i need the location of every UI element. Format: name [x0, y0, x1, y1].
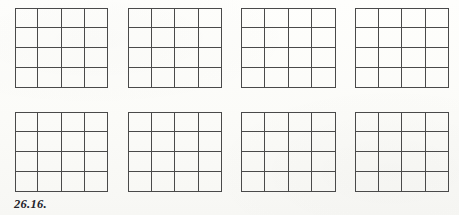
grid-cell[interactable] — [379, 68, 403, 88]
grid-cell[interactable] — [312, 48, 336, 68]
grid-cell[interactable] — [128, 28, 152, 48]
grid-cell[interactable] — [426, 112, 450, 132]
grid-cell[interactable] — [426, 68, 450, 88]
grid-cell[interactable] — [426, 8, 450, 28]
grid-3[interactable] — [241, 8, 336, 88]
grid-cell[interactable] — [402, 172, 426, 192]
grid-cell[interactable] — [15, 112, 38, 132]
grid-cell[interactable] — [379, 8, 403, 28]
grid-cell[interactable] — [128, 152, 152, 172]
grid-cell[interactable] — [62, 68, 85, 88]
grid-cell[interactable] — [175, 152, 199, 172]
grid-cell[interactable] — [265, 132, 289, 152]
grid-cell[interactable] — [15, 132, 38, 152]
grid-cell[interactable] — [289, 28, 313, 48]
grid-cell[interactable] — [15, 68, 38, 88]
grid-cell[interactable] — [355, 112, 379, 132]
grid-cell[interactable] — [128, 172, 152, 192]
grid-cell[interactable] — [265, 8, 289, 28]
grid-cell[interactable] — [199, 132, 223, 152]
grid-cell[interactable] — [62, 152, 85, 172]
grid-cell[interactable] — [289, 172, 313, 192]
grid-cell[interactable] — [152, 48, 176, 68]
grid-cell[interactable] — [85, 68, 108, 88]
grid-6[interactable] — [128, 112, 222, 192]
grid-cell[interactable] — [128, 112, 152, 132]
grid-cell[interactable] — [199, 68, 223, 88]
grid-cell[interactable] — [402, 132, 426, 152]
grid-cell[interactable] — [38, 152, 61, 172]
grid-cell[interactable] — [379, 132, 403, 152]
grid-cell[interactable] — [175, 8, 199, 28]
grid-cell[interactable] — [175, 112, 199, 132]
grid-cell[interactable] — [62, 8, 85, 28]
grid-cell[interactable] — [152, 28, 176, 48]
grid-cell[interactable] — [402, 28, 426, 48]
grid-cell[interactable] — [379, 152, 403, 172]
grid-cell[interactable] — [426, 172, 450, 192]
grid-cell[interactable] — [152, 132, 176, 152]
grid-cell[interactable] — [355, 172, 379, 192]
grid-cell[interactable] — [128, 68, 152, 88]
grid-cell[interactable] — [241, 28, 265, 48]
grid-cell[interactable] — [241, 8, 265, 28]
grid-cell[interactable] — [199, 112, 223, 132]
grid-cell[interactable] — [38, 132, 61, 152]
grid-cell[interactable] — [38, 172, 61, 192]
grid-cell[interactable] — [62, 132, 85, 152]
grid-cell[interactable] — [199, 152, 223, 172]
grid-cell[interactable] — [152, 112, 176, 132]
grid-cell[interactable] — [15, 8, 38, 28]
grid-cell[interactable] — [312, 8, 336, 28]
grid-cell[interactable] — [265, 112, 289, 132]
grid-cell[interactable] — [379, 28, 403, 48]
grid-cell[interactable] — [15, 48, 38, 68]
grid-cell[interactable] — [175, 172, 199, 192]
grid-cell[interactable] — [175, 68, 199, 88]
grid-cell[interactable] — [289, 152, 313, 172]
grid-cell[interactable] — [355, 132, 379, 152]
grid-cell[interactable] — [426, 48, 450, 68]
grid-cell[interactable] — [241, 48, 265, 68]
grid-cell[interactable] — [85, 152, 108, 172]
grid-cell[interactable] — [312, 172, 336, 192]
grid-1[interactable] — [15, 8, 108, 88]
grid-cell[interactable] — [15, 152, 38, 172]
grid-cell[interactable] — [241, 172, 265, 192]
grid-cell[interactable] — [402, 152, 426, 172]
grid-cell[interactable] — [426, 152, 450, 172]
grid-cell[interactable] — [379, 112, 403, 132]
grid-cell[interactable] — [199, 172, 223, 192]
grid-cell[interactable] — [199, 48, 223, 68]
grid-cell[interactable] — [402, 68, 426, 88]
grid-cell[interactable] — [289, 132, 313, 152]
grid-cell[interactable] — [241, 152, 265, 172]
grid-cell[interactable] — [241, 132, 265, 152]
grid-cell[interactable] — [265, 68, 289, 88]
grid-cell[interactable] — [175, 48, 199, 68]
grid-cell[interactable] — [152, 152, 176, 172]
grid-cell[interactable] — [85, 112, 108, 132]
grid-cell[interactable] — [38, 8, 61, 28]
grid-cell[interactable] — [85, 28, 108, 48]
grid-cell[interactable] — [289, 112, 313, 132]
grid-cell[interactable] — [62, 48, 85, 68]
grid-cell[interactable] — [199, 8, 223, 28]
grid-cell[interactable] — [355, 68, 379, 88]
grid-cell[interactable] — [312, 132, 336, 152]
grid-cell[interactable] — [128, 48, 152, 68]
grid-cell[interactable] — [128, 132, 152, 152]
grid-cell[interactable] — [355, 152, 379, 172]
grid-cell[interactable] — [175, 132, 199, 152]
grid-cell[interactable] — [265, 48, 289, 68]
grid-cell[interactable] — [152, 8, 176, 28]
grid-cell[interactable] — [402, 48, 426, 68]
grid-cell[interactable] — [355, 48, 379, 68]
grid-5[interactable] — [15, 112, 108, 192]
grid-cell[interactable] — [85, 8, 108, 28]
grid-cell[interactable] — [85, 132, 108, 152]
grid-cell[interactable] — [62, 172, 85, 192]
grid-cell[interactable] — [379, 48, 403, 68]
grid-cell[interactable] — [312, 152, 336, 172]
grid-cell[interactable] — [152, 68, 176, 88]
